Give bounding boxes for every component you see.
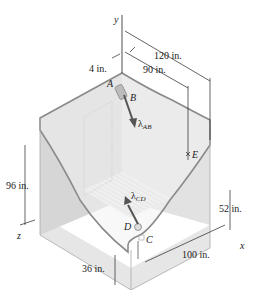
diagram-canvas: y z x 4 in. 120 in. 90 in. 96 in. 52 in.…	[0, 0, 257, 290]
point-D-marker	[135, 224, 142, 231]
label-C: C	[146, 234, 153, 245]
y-axis-label: y	[113, 14, 119, 25]
label-D: D	[123, 221, 132, 232]
label-B: B	[130, 92, 136, 103]
dim-4in: 4 in.	[89, 63, 107, 74]
z-axis-label: z	[16, 230, 21, 241]
dim-36in: 36 in.	[82, 263, 105, 274]
label-E: E	[191, 149, 198, 160]
x-axis-label: x	[239, 240, 245, 251]
dim-96in: 96 in.	[6, 180, 29, 191]
dim-90in: 90 in.	[143, 64, 166, 75]
dim-100in: 100 in.	[182, 249, 210, 260]
dim-52in: 52 in.	[219, 203, 242, 214]
dim-120in: 120 in.	[154, 50, 182, 61]
label-A: A	[106, 78, 114, 89]
